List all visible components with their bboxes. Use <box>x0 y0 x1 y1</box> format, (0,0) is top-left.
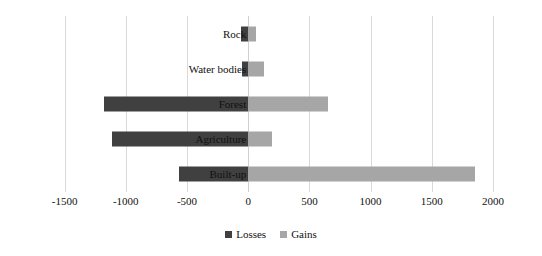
category-label-forest: Forest <box>34 98 246 110</box>
legend-item-gains[interactable]: Gains <box>280 228 317 241</box>
x-axis-tick-label: -500 <box>177 194 197 208</box>
bar-segment-gains <box>248 96 328 111</box>
x-axis-tick-label: 2000 <box>482 194 504 208</box>
bar-row: Agriculture <box>34 122 504 157</box>
bar-row: Built-up <box>34 157 504 192</box>
legend-label: Gains <box>291 228 317 241</box>
bar-segment-gains <box>248 26 255 41</box>
category-label-rock: Rock <box>34 28 246 40</box>
chart-legend: LossesGains <box>0 228 542 241</box>
x-axis-tick-label: 1000 <box>360 194 382 208</box>
legend-item-losses[interactable]: Losses <box>225 228 266 241</box>
x-axis-tick-label: 500 <box>301 194 318 208</box>
bar-segment-gains <box>248 132 272 147</box>
losses-swatch-icon <box>225 231 232 238</box>
category-label-agriculture: Agriculture <box>34 133 246 145</box>
bar-segment-gains <box>248 167 474 182</box>
bar-row: Forest <box>34 86 504 121</box>
bar-segment-gains <box>248 61 264 76</box>
bar-row: Rock <box>34 16 504 51</box>
legend-label: Losses <box>236 228 266 241</box>
bar-row: Water bodies <box>34 51 504 86</box>
x-axis-tick-label: 1500 <box>421 194 443 208</box>
x-axis-tick-label: -1500 <box>52 194 78 208</box>
x-axis: -1500-1000-5000500100015002000 <box>34 192 504 212</box>
diverging-bar-chart: RockWater bodiesForestAgricultureBuilt-u… <box>0 0 542 256</box>
category-label-water-bodies: Water bodies <box>34 63 246 75</box>
plot-area: RockWater bodiesForestAgricultureBuilt-u… <box>34 16 504 192</box>
category-label-built-up: Built-up <box>34 168 246 180</box>
x-axis-tick-label: -1000 <box>113 194 139 208</box>
gains-swatch-icon <box>280 231 287 238</box>
x-axis-tick-label: 0 <box>245 194 251 208</box>
